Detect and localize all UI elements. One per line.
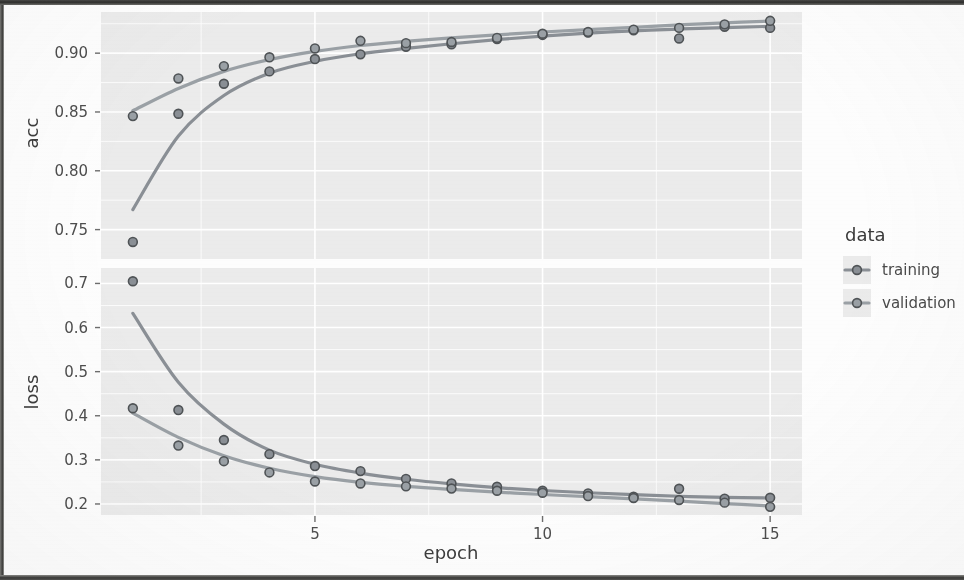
data-point-validation-loss	[174, 441, 183, 450]
data-point-validation-acc	[174, 74, 183, 83]
data-point-validation-loss	[447, 484, 456, 493]
legend-item-validation[interactable]: validation	[843, 289, 956, 317]
y-tick-label-acc: 0.85	[55, 103, 88, 121]
legend-items: trainingvalidation	[843, 256, 956, 317]
data-point-training-loss	[766, 493, 775, 502]
y-tick-label-acc: 0.90	[55, 44, 88, 62]
data-point-validation-acc	[447, 38, 456, 47]
data-point-validation-loss	[220, 457, 229, 466]
data-point-validation-acc	[311, 44, 320, 53]
data-point-validation-acc	[356, 36, 365, 45]
y-tick-label-loss: 0.3	[64, 451, 88, 469]
panel-loss	[101, 268, 802, 515]
legend: data trainingvalidation	[843, 224, 956, 317]
data-point-validation-acc	[265, 53, 274, 62]
data-point-training-loss	[220, 436, 229, 445]
data-point-validation-loss	[629, 494, 638, 503]
training-history-chart: 0.900.850.800.75 acc 0.70.60.50.40.30.2 …	[0, 0, 964, 580]
legend-item-label: training	[882, 261, 940, 279]
x-tick-label: 15	[761, 525, 780, 543]
data-point-validation-acc	[402, 39, 411, 48]
y-tick-label-loss: 0.7	[64, 274, 88, 292]
data-point-training-loss	[128, 277, 137, 286]
data-point-validation-acc	[493, 33, 502, 42]
data-point-training-loss	[265, 450, 274, 459]
y-tick-label-loss: 0.5	[64, 363, 88, 381]
data-point-validation-acc	[220, 62, 229, 71]
data-point-training-acc	[265, 67, 274, 76]
data-point-validation-loss	[584, 492, 593, 501]
legend-item-label: validation	[882, 294, 956, 312]
data-point-validation-acc	[538, 29, 547, 38]
panel-loss-background	[101, 268, 802, 515]
data-point-training-acc	[356, 50, 365, 59]
data-point-training-loss	[675, 484, 684, 493]
axis-title-epoch: epoch	[424, 542, 479, 563]
data-point-validation-loss	[493, 486, 502, 495]
data-point-validation-acc	[766, 16, 775, 25]
axis-y-acc: 0.900.850.800.75	[55, 44, 100, 238]
data-point-training-acc	[174, 109, 183, 118]
legend-title: data	[845, 224, 886, 245]
data-point-training-loss	[356, 467, 365, 476]
y-tick-label-acc: 0.80	[55, 162, 88, 180]
data-point-validation-loss	[675, 496, 684, 505]
data-point-training-loss	[174, 406, 183, 415]
panel-acc	[101, 12, 802, 259]
data-point-training-acc	[220, 79, 229, 88]
data-point-training-acc	[128, 238, 137, 247]
legend-key-point	[853, 266, 862, 275]
data-point-validation-loss	[311, 477, 320, 486]
figure-root: 0.900.850.800.75 acc 0.70.60.50.40.30.2 …	[0, 0, 964, 580]
data-point-validation-loss	[766, 502, 775, 511]
y-tick-label-loss: 0.2	[64, 495, 88, 513]
data-point-validation-loss	[720, 498, 729, 507]
data-point-validation-acc	[584, 28, 593, 37]
axis-x: 51015	[310, 516, 780, 543]
y-tick-label-acc: 0.75	[55, 221, 88, 239]
data-point-validation-loss	[538, 488, 547, 497]
data-point-validation-loss	[265, 468, 274, 477]
data-point-training-acc	[311, 55, 320, 64]
axis-title-loss: loss	[21, 375, 42, 410]
data-point-validation-acc	[629, 25, 638, 34]
y-tick-label-loss: 0.6	[64, 319, 88, 337]
legend-key-point	[853, 299, 862, 308]
data-point-validation-loss	[356, 479, 365, 488]
legend-item-training[interactable]: training	[843, 256, 940, 284]
axis-y-loss: 0.70.60.50.40.30.2	[64, 274, 100, 513]
x-tick-label: 10	[533, 525, 552, 543]
data-point-validation-acc	[720, 20, 729, 29]
x-tick-label: 5	[310, 525, 320, 543]
data-point-validation-loss	[128, 404, 137, 413]
axis-title-acc: acc	[21, 118, 42, 149]
data-point-validation-loss	[402, 482, 411, 491]
data-point-validation-acc	[675, 23, 684, 32]
y-tick-label-loss: 0.4	[64, 407, 88, 425]
data-point-training-acc	[675, 34, 684, 43]
data-point-training-loss	[311, 462, 320, 471]
data-point-validation-acc	[128, 112, 137, 121]
